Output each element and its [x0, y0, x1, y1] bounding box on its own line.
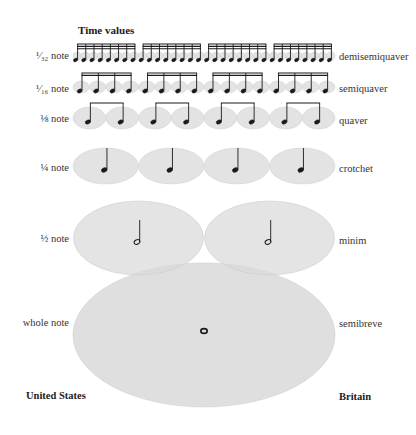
semibreve-ellipse: [73, 263, 335, 407]
quaver-ellipse: [171, 107, 204, 129]
quaver-ellipse: [302, 107, 335, 129]
quaver-ellipse: [139, 107, 172, 129]
crotchet-ellipse: [204, 148, 270, 184]
quaver-ellipse: [270, 107, 303, 129]
crotchet-ellipse: [139, 148, 205, 184]
quaver-ellipse: [204, 107, 237, 129]
quaver-ellipse: [237, 107, 270, 129]
crotchet-ellipse: [270, 148, 336, 184]
quaver-ellipse: [106, 107, 139, 129]
note-values-diagram: [0, 0, 416, 435]
minim-ellipse: [74, 201, 204, 275]
quaver-ellipse: [73, 107, 106, 129]
crotchet-ellipse: [73, 148, 139, 184]
minim-ellipse: [205, 201, 335, 275]
